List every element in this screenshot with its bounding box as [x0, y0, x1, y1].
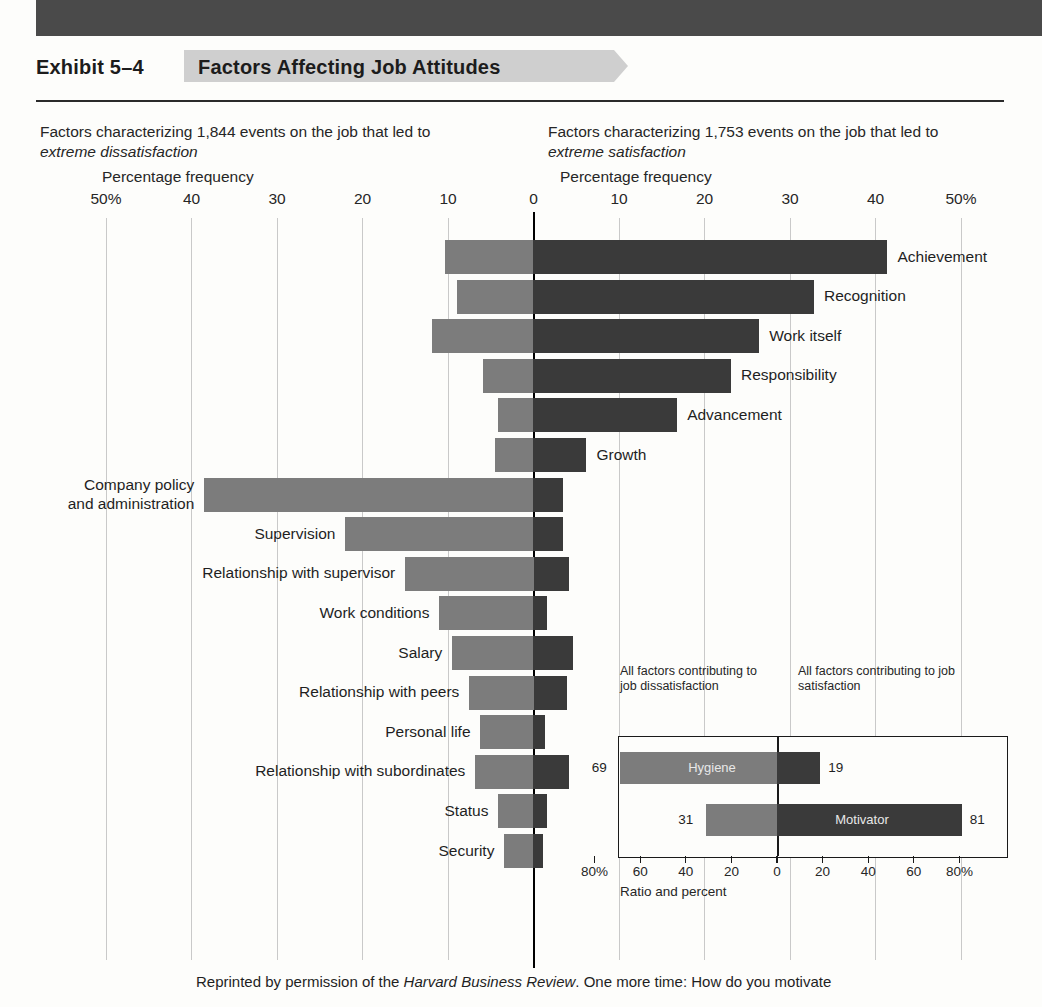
bar-category-label-line: Responsibility — [741, 365, 837, 384]
inset-note-dissatisfaction: All factors contributing to job dissatis… — [620, 664, 770, 694]
inset-tick-label: 20 — [724, 864, 739, 879]
bar-satisfaction — [533, 596, 547, 630]
axis-tick-label: 40 — [867, 190, 884, 208]
inset-tick-mark — [913, 856, 914, 863]
bar-category-label-line: Salary — [398, 643, 442, 662]
inset-value-left: 69 — [592, 752, 607, 784]
bar-category-label: Salary — [398, 643, 442, 662]
gridline — [448, 218, 449, 960]
bar-category-label: Recognition — [824, 286, 906, 305]
chart-bar-row — [345, 517, 562, 551]
inset-bar-name: Hygiene — [612, 752, 813, 784]
inset-tick-mark — [640, 856, 641, 863]
left-axis-caption: Percentage frequency — [102, 168, 254, 186]
exhibit-number: Exhibit 5–4 — [36, 56, 144, 79]
axis-tick-label: 30 — [781, 190, 798, 208]
bar-satisfaction — [533, 359, 731, 393]
bar-category-label-line: Personal life — [385, 722, 470, 741]
source-caption: Reprinted by permission of the Harvard B… — [196, 972, 1042, 992]
bar-satisfaction — [533, 240, 887, 274]
bar-satisfaction — [533, 319, 759, 353]
inset-value-right: 19 — [828, 752, 843, 784]
axis-tick-label: 50% — [945, 190, 976, 208]
chart-bar-row — [457, 280, 814, 314]
bar-dissatisfaction — [498, 398, 534, 432]
bar-category-label-line: Growth — [597, 445, 647, 464]
bar-satisfaction — [533, 715, 545, 749]
chart-bar-row — [432, 319, 759, 353]
bar-dissatisfaction — [452, 636, 533, 670]
gridline — [277, 218, 278, 960]
dissatisfaction-blurb-line1: Factors characterizing 1,844 events on t… — [40, 123, 430, 140]
bar-category-label: Relationship with peers — [299, 682, 459, 701]
inset-tick-mark — [685, 856, 686, 863]
axis-tick-label: 20 — [354, 190, 371, 208]
bar-dissatisfaction — [469, 676, 533, 710]
inset-tick-mark — [959, 856, 960, 863]
bar-dissatisfaction — [345, 517, 533, 551]
bar-category-label: Personal life — [385, 722, 470, 741]
title-divider — [36, 100, 1004, 102]
bar-dissatisfaction — [495, 438, 533, 472]
gridline — [362, 218, 363, 960]
inset-tick-label: 80% — [581, 864, 608, 879]
bar-category-label: Security — [438, 841, 494, 860]
satisfaction-blurb-line2: extreme satisfaction — [548, 143, 686, 160]
bar-dissatisfaction — [204, 478, 533, 512]
bar-category-label-line: Advancement — [687, 405, 782, 424]
bar-category-label-line: and administration — [68, 494, 195, 513]
satisfaction-blurb: Factors characterizing 1,753 events on t… — [548, 122, 1028, 162]
inset-bar-name: Motivator — [734, 804, 989, 836]
chart-bar-row — [405, 557, 568, 591]
bar-category-label: Responsibility — [741, 365, 837, 384]
bar-category-label-line: Security — [438, 841, 494, 860]
bar-dissatisfaction — [439, 596, 533, 630]
bar-dissatisfaction — [457, 280, 533, 314]
inset-axis-title: Ratio and percent — [620, 884, 727, 899]
axis-tick-label: 40 — [183, 190, 200, 208]
bar-dissatisfaction — [480, 715, 533, 749]
bar-dissatisfaction — [498, 794, 533, 828]
inset-value-left: 31 — [678, 804, 693, 836]
chart-bar-row — [469, 676, 566, 710]
bar-satisfaction — [533, 280, 813, 314]
bar-category-label: Work conditions — [319, 603, 429, 622]
chart-bar-row — [480, 715, 545, 749]
bar-dissatisfaction — [504, 834, 533, 868]
bar-dissatisfaction — [445, 240, 534, 274]
right-axis-caption: Percentage frequency — [560, 168, 712, 186]
inset-tick-label: 0 — [773, 864, 781, 879]
bar-satisfaction — [533, 517, 562, 551]
bar-category-label-line: Relationship with subordinates — [255, 761, 465, 780]
bar-category-label: Supervision — [254, 524, 335, 543]
bar-category-label: Status — [445, 801, 489, 820]
bar-category-label-line: Work itself — [769, 326, 841, 345]
inset-bar-row: Motivator — [706, 804, 961, 836]
satisfaction-blurb-line1: Factors characterizing 1,753 events on t… — [548, 123, 938, 140]
bar-category-label-line: Company policy — [68, 475, 195, 494]
bar-satisfaction — [533, 478, 562, 512]
page-title: Factors Affecting Job Attitudes — [198, 56, 501, 79]
bar-category-label-line: Achievement — [897, 247, 987, 266]
bar-dissatisfaction — [432, 319, 534, 353]
bar-satisfaction — [534, 676, 567, 710]
bar-dissatisfaction — [483, 359, 533, 393]
bar-category-label: Growth — [597, 445, 647, 464]
bar-category-label: Advancement — [687, 405, 782, 424]
bar-satisfaction — [533, 636, 572, 670]
dissatisfaction-blurb: Factors characterizing 1,844 events on t… — [40, 122, 520, 162]
exhibit-title-row: Exhibit 5–4 Factors Affecting Job Attitu… — [36, 52, 596, 86]
bar-category-label: Relationship with subordinates — [255, 761, 465, 780]
inset-note-satisfaction: All factors contributing to job satisfac… — [798, 664, 958, 694]
bar-category-label-line: Relationship with peers — [299, 682, 459, 701]
inset-tick-label: 80% — [946, 864, 973, 879]
gridline — [106, 218, 107, 960]
bar-category-label: Relationship with supervisor — [202, 563, 395, 582]
axis-tick-label: 10 — [610, 190, 627, 208]
axis-tick-label: 50% — [90, 190, 121, 208]
inset-tick-label: 40 — [861, 864, 876, 879]
chart-bar-row — [204, 478, 562, 512]
axis-tick-label: 30 — [268, 190, 285, 208]
bar-category-label-line: Supervision — [254, 524, 335, 543]
bar-satisfaction — [533, 755, 569, 789]
